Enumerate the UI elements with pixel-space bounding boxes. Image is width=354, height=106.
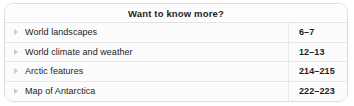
list-item-label: World climate and weather [25,47,133,57]
list-item[interactable]: World climate and weather 12–13 [5,43,347,63]
list-item-label: World landscapes [25,27,97,37]
list-item-topic-cell: World climate and weather [5,43,289,62]
list-item-pages: 222–223 [299,86,335,96]
list-item[interactable]: Map of Antarctica 222–223 [5,82,347,102]
list-item-pages-cell: 222–223 [289,82,347,102]
list-item[interactable]: World landscapes 6–7 [5,23,347,43]
triangle-right-icon [14,68,18,74]
list-item-pages-cell: 214–215 [289,62,347,81]
list-item-topic-cell: Map of Antarctica [5,82,289,102]
cross-reference-list: World landscapes 6–7 World climate and w… [5,23,347,101]
triangle-right-icon [14,88,18,94]
list-item-topic-cell: World landscapes [5,23,289,42]
panel-title: Want to know more? [128,8,224,19]
list-item-topic-cell: Arctic features [5,62,289,81]
triangle-right-icon [14,29,18,35]
list-item-pages: 12–13 [299,47,325,57]
list-item-label: Arctic features [25,66,83,76]
panel-header: Want to know more? [5,4,347,23]
want-to-know-more-panel: Want to know more? World landscapes 6–7 … [4,3,348,102]
list-item[interactable]: Arctic features 214–215 [5,62,347,82]
list-item-pages: 6–7 [299,27,314,37]
list-item-label: Map of Antarctica [25,86,95,96]
list-item-pages-cell: 12–13 [289,43,347,62]
list-item-pages: 214–215 [299,66,335,76]
triangle-right-icon [14,49,18,55]
list-item-pages-cell: 6–7 [289,23,347,42]
